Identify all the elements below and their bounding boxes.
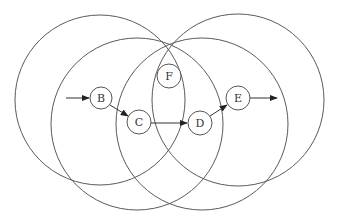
node-d: D (188, 111, 212, 135)
node-b-label: B (97, 92, 105, 105)
node-e-label: E (234, 92, 242, 105)
node-b: B (90, 87, 112, 109)
node-d-label: D (196, 117, 205, 130)
node-c-label: C (135, 116, 143, 129)
edge-d-to-e (210, 105, 227, 116)
node-c: C (127, 110, 151, 134)
node-f: F (157, 64, 181, 88)
node-e: E (226, 86, 250, 110)
node-f-label: F (165, 70, 173, 83)
edge-b-to-c (110, 105, 128, 116)
diagram-canvas: B C D E F (0, 0, 337, 221)
